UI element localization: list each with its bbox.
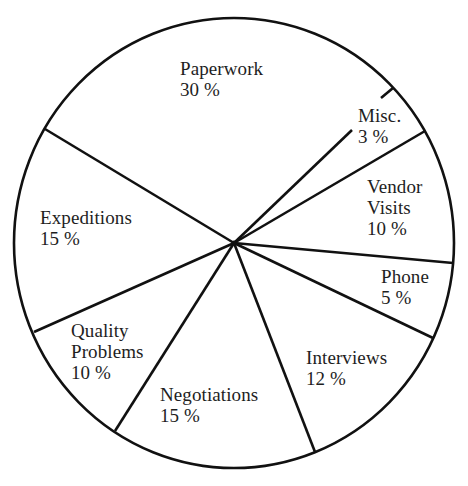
label-paperwork-pct: 30 % bbox=[180, 79, 263, 100]
label-negotiations: Negotiations 15 % bbox=[160, 384, 258, 426]
label-interviews-name: Interviews bbox=[306, 347, 387, 368]
label-interviews-pct: 12 % bbox=[306, 368, 387, 389]
label-quality-name-2: Problems bbox=[71, 341, 144, 362]
label-vendor-name-1: Vendor bbox=[367, 176, 422, 197]
label-quality-pct: 10 % bbox=[71, 362, 144, 383]
label-vendor-visits: Vendor Visits 10 % bbox=[367, 176, 422, 239]
label-vendor-name-2: Visits bbox=[367, 197, 422, 218]
label-interviews: Interviews 12 % bbox=[306, 347, 387, 389]
label-paperwork-name: Paperwork bbox=[180, 58, 263, 79]
divider-paperwork-misc-tick bbox=[381, 88, 393, 98]
label-negotiations-pct: 15 % bbox=[160, 405, 258, 426]
label-phone-name: Phone bbox=[381, 266, 429, 287]
label-misc-pct: 3 % bbox=[358, 126, 401, 147]
label-paperwork: Paperwork 30 % bbox=[180, 58, 263, 100]
label-misc: Misc. 3 % bbox=[358, 105, 401, 147]
label-phone-pct: 5 % bbox=[381, 287, 429, 308]
label-quality-problems: Quality Problems 10 % bbox=[71, 320, 144, 383]
divider-quality-expeditions bbox=[34, 243, 234, 332]
label-vendor-pct: 10 % bbox=[367, 218, 422, 239]
label-phone: Phone 5 % bbox=[381, 266, 429, 308]
divider-paperwork-misc-inner bbox=[234, 130, 352, 243]
pie-center-dot bbox=[232, 241, 237, 246]
label-expeditions-name: Expeditions bbox=[40, 207, 132, 228]
pie-chart: Paperwork 30 % Misc. 3 % Vendor Visits 1… bbox=[0, 0, 468, 486]
label-negotiations-name: Negotiations bbox=[160, 384, 258, 405]
label-quality-name-1: Quality bbox=[71, 320, 144, 341]
label-misc-name: Misc. bbox=[358, 105, 401, 126]
label-expeditions-pct: 15 % bbox=[40, 228, 132, 249]
label-expeditions: Expeditions 15 % bbox=[40, 207, 132, 249]
